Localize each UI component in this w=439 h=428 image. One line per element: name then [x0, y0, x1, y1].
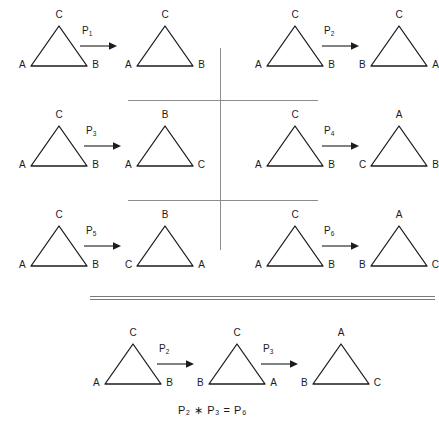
vertex-label-bottom-right: B: [92, 260, 99, 270]
vertex-label-bottom-left: B: [359, 260, 366, 270]
arrow-composition-2: P3: [261, 344, 303, 374]
vertex-label-apex: C: [233, 328, 240, 338]
vertex-label-bottom-right: B: [92, 60, 99, 70]
vertex-label-bottom-left: B: [359, 60, 366, 70]
vertex-label-bottom-right: B: [432, 160, 439, 170]
vertex-label-apex: A: [338, 328, 345, 338]
vertex-label-bottom-left: A: [255, 160, 262, 170]
triangle-result-p2: C B A: [362, 10, 436, 76]
vertex-label-apex: A: [396, 110, 403, 120]
vertex-label-bottom-right: C: [198, 160, 205, 170]
vertex-label-bottom-right: A: [270, 378, 277, 388]
arrow-p6: P6: [322, 226, 364, 256]
vertex-label-bottom-left: A: [125, 160, 132, 170]
vertex-label-bottom-left: A: [19, 260, 26, 270]
triangle-result-p1: C A B: [128, 10, 202, 76]
vertex-label-bottom-left: A: [125, 60, 132, 70]
triangle-source-p4: C A B: [258, 110, 332, 176]
vertex-label-apex: B: [162, 210, 169, 220]
divider-horizontal-top: [128, 100, 318, 101]
vertex-label-bottom-right: B: [166, 378, 173, 388]
vertex-label-bottom-left: B: [197, 378, 204, 388]
vertex-label-apex: C: [395, 10, 402, 20]
triangle-source-p2: C A B: [258, 10, 332, 76]
vertex-label-bottom-right: C: [432, 260, 439, 270]
vertex-label-apex: C: [129, 328, 136, 338]
operator-label-p3: P3: [86, 126, 96, 136]
triangle-result-p6: A B C: [362, 210, 436, 276]
vertex-label-bottom-right: A: [432, 60, 439, 70]
figure-canvas: C A B P1 C A B C A B: [0, 0, 439, 428]
operator-label-p6: P6: [324, 226, 334, 236]
vertex-label-apex: C: [291, 10, 298, 20]
arrow-p1: P1: [80, 26, 122, 56]
vertex-label-apex: C: [291, 210, 298, 220]
vertex-label-bottom-right: C: [374, 378, 381, 388]
vertex-label-bottom-right: B: [92, 160, 99, 170]
arrow-p3: P3: [84, 126, 126, 156]
arrow-p2: P2: [322, 26, 364, 56]
vertex-label-bottom-left: A: [93, 378, 100, 388]
triangle-source-p6: C A B: [258, 210, 332, 276]
vertex-label-apex: C: [55, 110, 62, 120]
vertex-label-apex: C: [161, 10, 168, 20]
vertex-label-apex: C: [291, 110, 298, 120]
triangle-result-p4: A C B: [362, 110, 436, 176]
vertex-label-apex: C: [55, 210, 62, 220]
operator-label-p2: P2: [324, 26, 334, 36]
vertex-label-bottom-right: A: [198, 260, 205, 270]
vertex-label-bottom-left: A: [19, 160, 26, 170]
vertex-label-bottom-left: A: [255, 60, 262, 70]
divider-double-rule: [90, 296, 435, 300]
vertex-label-bottom-left: A: [255, 260, 262, 270]
operator-label-composition-2: P3: [263, 344, 273, 354]
divider-horizontal-bottom: [128, 200, 318, 201]
operator-label-p1: P1: [82, 26, 92, 36]
arrow-p5: P5: [84, 226, 126, 256]
operator-label-p5: P5: [86, 226, 96, 236]
vertex-label-bottom-right: B: [198, 60, 205, 70]
operator-label-composition-1: P2: [159, 344, 169, 354]
triangle-result-p3: B A C: [128, 110, 202, 176]
arrow-composition-1: P2: [157, 344, 199, 374]
vertex-label-bottom-left: C: [359, 160, 366, 170]
triangle-composition-step-3: A B C: [304, 328, 378, 394]
divider-vertical: [220, 48, 221, 250]
vertex-label-apex: A: [396, 210, 403, 220]
composition-equation: P₂ ∗ P₃ = P₆: [178, 404, 247, 417]
vertex-label-apex: B: [162, 110, 169, 120]
vertex-label-apex: C: [55, 10, 62, 20]
arrow-p4: P4: [322, 126, 364, 156]
vertex-label-bottom-left: A: [19, 60, 26, 70]
vertex-label-bottom-right: B: [328, 160, 335, 170]
vertex-label-bottom-right: B: [328, 260, 335, 270]
vertex-label-bottom-right: B: [328, 60, 335, 70]
vertex-label-bottom-left: B: [301, 378, 308, 388]
operator-label-p4: P4: [324, 126, 334, 136]
vertex-label-bottom-left: C: [125, 260, 132, 270]
triangle-result-p5: B C A: [128, 210, 202, 276]
